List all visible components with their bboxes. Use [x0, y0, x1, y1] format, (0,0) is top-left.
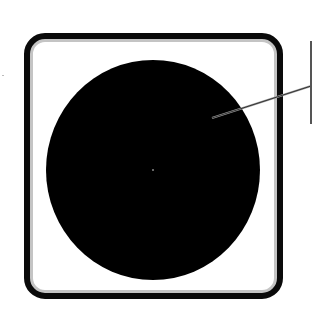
callout-bar [310, 41, 312, 124]
margin-mark [2, 75, 4, 76]
diagram-canvas [0, 0, 312, 320]
center-point [152, 169, 154, 171]
